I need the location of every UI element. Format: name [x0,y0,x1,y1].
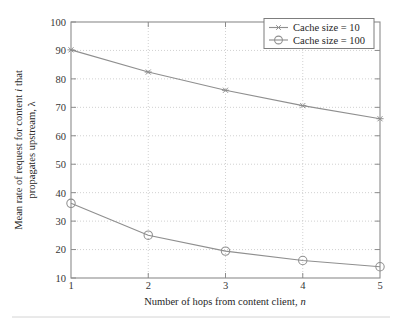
y-axis-title-line1-pre: Mean rate of request for content [13,95,24,230]
y-tick-label: 80 [56,74,67,85]
y-tick-label: 50 [56,159,67,170]
x-tick-label: 2 [146,280,151,291]
y-axis-title: Mean rate of request for contentithat pr… [13,70,37,230]
x-tick-label: 1 [68,280,73,291]
y-tick-labels: 100 90 80 70 60 50 40 30 20 10 [50,17,66,284]
x-tick-labels: 1 2 3 4 5 [68,280,382,291]
legend[interactable]: Cache size = 10 Cache size = 100 [264,19,374,49]
x-axis-title-italic: n [301,296,306,307]
y-axis-title-line1-post: that [13,70,24,86]
legend-label: Cache size = 100 [293,35,365,46]
y-tick-label: 90 [56,45,67,56]
legend-label: Cache size = 10 [293,22,360,33]
x-axis-title-text: Number of hops from content client, [144,296,297,307]
x-tick-label: 3 [223,280,228,291]
plot-area-background [71,22,380,278]
y-axis-title-line1-italic: i [13,89,24,92]
y-tick-label: 70 [56,102,67,113]
y-tick-label: 100 [50,17,66,28]
y-tick-label: 40 [56,188,67,199]
y-tick-label: 30 [56,216,67,227]
x-tick-label: 4 [300,280,306,291]
figure-container: 100 90 80 70 60 50 40 30 20 10 1 2 3 4 5… [0,0,402,321]
y-axis-title-line2: propagates upstream, λ [26,101,37,199]
y-tick-label: 10 [56,273,67,284]
x-tick-label: 5 [377,280,382,291]
line-chart: 100 90 80 70 60 50 40 30 20 10 1 2 3 4 5… [0,0,402,321]
svg-text:Mean rate of request for conte: Mean rate of request for contentithat [13,70,24,230]
y-tick-label: 60 [56,131,67,142]
x-axis-title: Number of hops from content client,n [144,296,306,307]
y-tick-label: 20 [56,244,67,255]
